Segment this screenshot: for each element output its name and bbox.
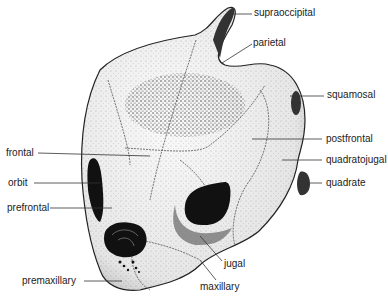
frontal-stipple: [125, 73, 245, 137]
label-frontal: frontal: [6, 147, 34, 159]
label-jugal: jugal: [224, 258, 245, 270]
label-premaxillary: premaxillary: [22, 275, 76, 287]
label-squamosal: squamosal: [327, 89, 375, 101]
label-prefrontal: prefrontal: [7, 202, 49, 214]
label-maxillary: maxillary: [200, 281, 239, 293]
skull: [82, 7, 310, 290]
nostril: [104, 222, 147, 257]
label-supraoccipital: supraoccipital: [254, 7, 315, 19]
label-quadrate: quadrate: [326, 177, 365, 189]
label-quadratojugal: quadratojugal: [326, 154, 387, 166]
quadrate-bone: [297, 172, 310, 196]
label-orbit: orbit: [8, 177, 27, 189]
label-parietal: parietal: [253, 37, 286, 49]
label-postfrontal: postfrontal: [326, 133, 373, 145]
skull-diagram: [0, 0, 388, 299]
